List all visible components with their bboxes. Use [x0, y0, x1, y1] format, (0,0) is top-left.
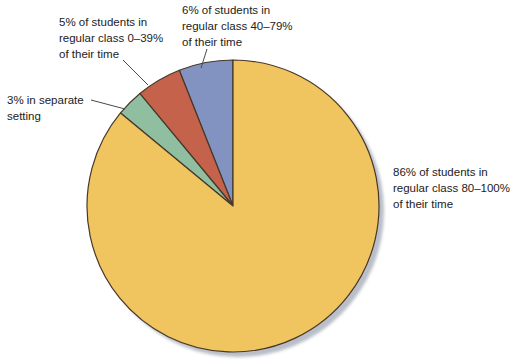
- pie-chart-figure: 6% of students in regular class 40–79% o…: [0, 0, 512, 362]
- pie-slices: [87, 60, 379, 352]
- leader-line-regular-0-39: [123, 60, 148, 85]
- slice-label-separate-setting: 3% in separate setting: [7, 92, 84, 124]
- leader-line-separate-setting: [91, 100, 125, 109]
- slice-label-regular-0-39: 5% of students in regular class 0–39% of…: [59, 14, 163, 62]
- slice-label-regular-40-79: 6% of students in regular class 40–79% o…: [182, 2, 293, 50]
- slice-label-regular-80-100: 86% of students in regular class 80–100%…: [393, 164, 510, 212]
